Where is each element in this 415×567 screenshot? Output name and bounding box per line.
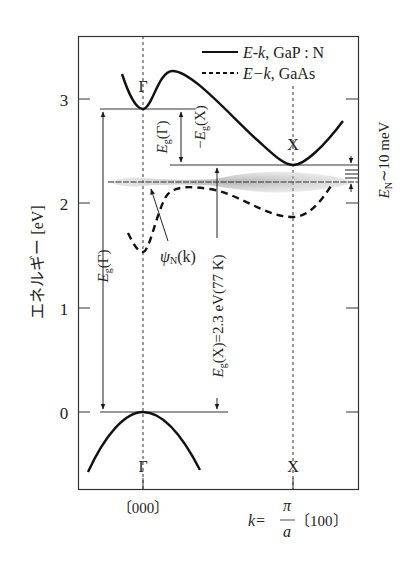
legend: E-k, GaP : N E−k, GaAs [202, 44, 325, 82]
y-tick-2: 2 [60, 195, 69, 214]
en-marker [345, 156, 358, 192]
y-axis-label: エネルギー [eV] [29, 205, 46, 318]
legend-item-gaas: E−k, GaAs [242, 65, 315, 82]
gaas-conduction-band [128, 186, 331, 252]
x-label-gamma: 〔000〕 [117, 500, 170, 516]
svg-text:a: a [283, 523, 291, 540]
label-eg-diff-line1: Eg(Γ) [154, 121, 172, 155]
legend-item-gap: E-k, GaP : N [242, 44, 325, 61]
x-label-x: k= π a 〔100〕 [248, 497, 348, 540]
label-eg-diff-line2: −Eg(X) [192, 105, 210, 148]
y-tick-labels: 3 2 1 0 [60, 91, 69, 423]
label-psi-n: ψN(k) [160, 248, 196, 266]
y-tick-3: 3 [60, 91, 69, 110]
svg-text:〔100〕: 〔100〕 [295, 513, 348, 529]
label-eg-gamma: Eg(Γ) [95, 250, 113, 284]
x-top-label: X [287, 136, 299, 153]
gamma-bottom-label: Γ [138, 458, 147, 475]
y-tick-0: 0 [60, 404, 69, 423]
label-en: EN∼10 meV [376, 121, 394, 199]
y-tick-1: 1 [60, 300, 69, 319]
gamma-top-label: Γ [138, 78, 147, 95]
band-diagram: 3 2 1 0 エネルギー [eV] E-k, GaP : N E−k [0, 0, 415, 567]
svg-text:k=: k= [248, 512, 266, 529]
svg-text:π: π [283, 497, 292, 514]
x-bottom-label: X [287, 458, 299, 475]
label-eg-x: Eg(X)=2.3 eV(77 K) [210, 254, 228, 378]
